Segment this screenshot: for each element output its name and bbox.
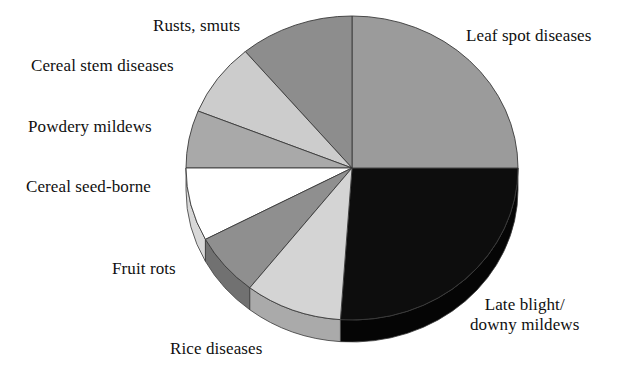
pie-top-faces xyxy=(186,16,518,320)
pie-label-rusts-smuts: Rusts, smuts xyxy=(153,16,240,36)
pie-label-late-blight-downy-mildews: Late blight/ downy mildews xyxy=(470,295,579,335)
pie-label-cereal-stem-diseases: Cereal stem diseases xyxy=(31,56,174,76)
pie-label-fruit-rots: Fruit rots xyxy=(112,259,176,279)
pie-label-powdery-mildews: Powdery mildews xyxy=(28,117,152,137)
pie-label-leaf-spot-diseases: Leaf spot diseases xyxy=(466,26,591,46)
pie-label-rice-diseases: Rice diseases xyxy=(170,339,262,359)
pie-chart-figure: Leaf spot diseases Late blight/ downy mi… xyxy=(0,0,644,376)
pie-label-cereal-seed-borne: Cereal seed-borne xyxy=(26,177,151,197)
